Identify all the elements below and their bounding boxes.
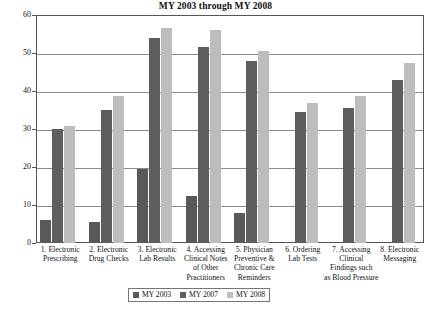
chart-title: MY 2003 through MY 2008 [0, 1, 431, 11]
gridline [37, 54, 423, 55]
gridline [37, 130, 423, 131]
x-axis-label-line: Messaging [372, 254, 429, 263]
legend-swatch-icon [227, 292, 233, 298]
gridline [37, 168, 423, 169]
x-axis-label-line: Chronic Care [226, 263, 283, 272]
x-axis-label-line: 8. Electronic [372, 245, 429, 254]
legend-item[interactable]: MY 2003 [133, 290, 171, 299]
legend-label: MY 2008 [236, 290, 265, 299]
y-axis-ticks: 0102030405060 [0, 15, 36, 243]
y-tick-label: 50 [23, 49, 31, 57]
legend-item[interactable]: MY 2007 [180, 290, 218, 299]
legend-swatch-icon [133, 292, 139, 298]
x-axis-label-line: Findings such [323, 263, 380, 272]
gridline [37, 206, 423, 207]
x-axis-label-line: as Blood Pressure [323, 273, 380, 282]
chart-legend: MY 2003MY 2007MY 2008 [128, 288, 270, 302]
y-tick-mark [32, 243, 36, 244]
x-axis-label-line: Reminders [226, 273, 283, 282]
legend-item[interactable]: MY 2008 [227, 290, 265, 299]
y-tick-label: 10 [23, 201, 31, 209]
y-tick-label: 0 [27, 239, 31, 247]
y-tick-label: 60 [23, 11, 31, 19]
y-tick-label: 40 [23, 87, 31, 95]
bar-chart: MY 2003 through MY 2008 Percent of POs 0… [0, 0, 431, 314]
legend-label: MY 2007 [189, 290, 218, 299]
legend-swatch-icon [180, 292, 186, 298]
x-axis-labels: 1. ElectronicPrescribing2. ElectronicDru… [36, 245, 424, 285]
x-axis-label: 8. ElectronicMessaging [372, 245, 429, 263]
gridline [37, 92, 423, 93]
y-tick-label: 20 [23, 163, 31, 171]
y-tick-label: 30 [23, 125, 31, 133]
legend-label: MY 2003 [142, 290, 171, 299]
plot-area [36, 15, 424, 243]
